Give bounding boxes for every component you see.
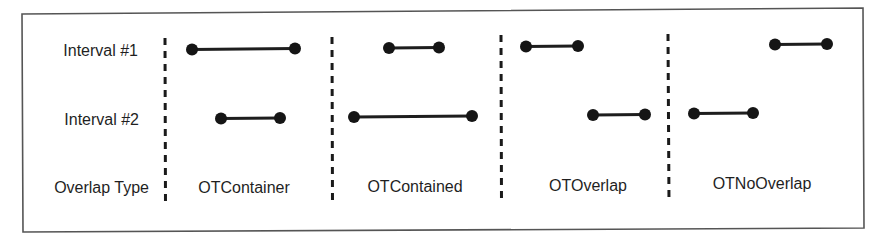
interval-start-point [186,44,198,56]
overlap-type-label: OTOverlap [549,177,627,194]
interval-2-segment [587,109,651,122]
overlap-type-label: OTContainer [198,179,290,196]
row-label-overlap-type: Overlap Type [54,179,149,196]
interval-2-segment [348,110,478,123]
interval-overlap-diagram: Interval #1 Interval #2 Overlap Type OTC… [0,0,884,244]
column-ot-container: OTContainer [186,43,301,197]
column-divider-1 [165,38,166,207]
interval-end-point [433,42,445,54]
interval-end-point [821,38,833,50]
row-label-interval-2: Interval #2 [64,111,139,128]
interval-1-segment [186,43,301,56]
interval-2-segment [688,107,759,120]
interval-start-point [383,42,395,54]
interval-1-segment [383,42,445,55]
interval-end-point [639,109,651,121]
column-divider-2 [332,37,333,206]
interval-end-point [572,40,584,52]
interval-start-point [688,108,700,120]
column-ot-overlap: OTOverlap [520,40,651,194]
column-divider-3 [501,35,502,204]
interval-start-point [769,39,781,51]
interval-end-point [747,107,759,119]
column-divider-4 [668,34,669,203]
interval-2-segment [215,112,286,125]
row-label-interval-1: Interval #1 [63,42,138,59]
overlap-type-label: OTContained [367,178,462,195]
interval-end-point [274,112,286,124]
interval-1-segment [769,38,833,51]
interval-start-point [215,113,227,125]
interval-1-segment [520,40,584,53]
interval-start-point [348,111,360,123]
interval-start-point [587,109,599,121]
overlap-type-label: OTNoOverlap [713,175,812,192]
column-ot-contained: OTContained [348,42,478,196]
interval-start-point [520,41,532,53]
interval-end-point [466,110,478,122]
interval-end-point [289,43,301,55]
diagram-frame [22,8,864,232]
column-ot-no-overlap: OTNoOverlap [688,38,833,192]
